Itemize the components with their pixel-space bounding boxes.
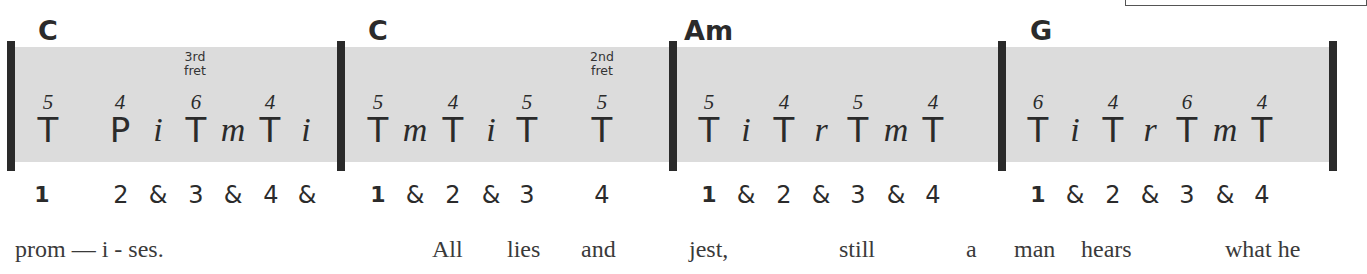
string-number: 5 [358, 92, 398, 112]
tab-note: 6T [176, 92, 216, 148]
tab-note: 4T [250, 92, 290, 148]
beat-count: & [1132, 180, 1168, 210]
bar-line [7, 41, 15, 171]
lyric-word: prom — i - ses. [15, 234, 164, 264]
finger-symbol: m [213, 112, 253, 148]
tab-note: 4T [433, 92, 473, 148]
string-number: 4 [1242, 92, 1282, 112]
finger-symbol: P [100, 112, 140, 148]
bar-line [669, 41, 677, 171]
finger-symbol: i [726, 112, 766, 148]
finger-symbol: T [913, 112, 953, 148]
tab-note: i [138, 92, 178, 148]
string-number [876, 92, 916, 112]
finger-symbol: T [250, 112, 290, 148]
tab-note: 5T [689, 92, 729, 148]
beat-count: 1 [1020, 180, 1056, 210]
string-number [138, 92, 178, 112]
string-number [213, 92, 253, 112]
beat-count: 1 [360, 180, 396, 210]
beat-count: & [803, 180, 839, 210]
fret-annotation: 2nd fret [584, 50, 620, 78]
beat-count: 4 [1244, 180, 1280, 210]
finger-symbol: T [1242, 112, 1282, 148]
string-number [395, 92, 435, 112]
bar-line [1329, 41, 1337, 171]
string-number: 5 [28, 92, 68, 112]
finger-symbol: T [1093, 112, 1133, 148]
lyric-word: still [839, 234, 875, 264]
beat-count: 3 [509, 180, 545, 210]
beat-count: 3 [840, 180, 876, 210]
finger-symbol: i [286, 112, 326, 148]
finger-symbol: i [471, 112, 511, 148]
tab-note: i [286, 92, 326, 148]
finger-symbol: m [395, 112, 435, 148]
finger-symbol: T [176, 112, 216, 148]
lyric-word: lies [507, 234, 540, 264]
beat-count: 2 [103, 180, 139, 210]
finger-symbol: T [1167, 112, 1207, 148]
string-number: 4 [913, 92, 953, 112]
tab-note: 5T [838, 92, 878, 148]
string-number: 4 [433, 92, 473, 112]
tab-note: 5T [358, 92, 398, 148]
chord-label: C [368, 16, 388, 46]
string-number: 5 [507, 92, 547, 112]
beat-count: & [1207, 180, 1243, 210]
finger-symbol: m [876, 112, 916, 148]
string-number [726, 92, 766, 112]
string-number: 6 [1018, 92, 1058, 112]
beat-count: 1 [24, 180, 60, 210]
beat-count: 1 [691, 180, 727, 210]
string-number: 4 [764, 92, 804, 112]
bar-line [998, 41, 1006, 171]
beat-count: 4 [253, 180, 289, 210]
tab-note: 5T [582, 92, 622, 148]
beat-count: & [878, 180, 914, 210]
finger-symbol: T [358, 112, 398, 148]
lyric-word: a [966, 234, 977, 264]
beat-count: & [140, 180, 176, 210]
chord-label: C [38, 16, 58, 46]
beat-count: 4 [584, 180, 620, 210]
lyric-word: and [581, 234, 616, 264]
tab-note: 4P [100, 92, 140, 148]
chord-label: G [1030, 16, 1052, 46]
beat-count: & [289, 180, 325, 210]
tab-note: m [876, 92, 916, 148]
finger-symbol: r [801, 112, 841, 148]
tab-note: 6T [1018, 92, 1058, 148]
string-number [471, 92, 511, 112]
finger-symbol: T [28, 112, 68, 148]
tab-note: i [726, 92, 766, 148]
beat-count: & [473, 180, 509, 210]
lyric-word: jest, [689, 234, 728, 264]
string-number: 4 [1093, 92, 1133, 112]
finger-symbol: T [689, 112, 729, 148]
tab-note: m [213, 92, 253, 148]
beat-count: 2 [435, 180, 471, 210]
tab-note: 4T [1093, 92, 1133, 148]
string-number [286, 92, 326, 112]
string-number [1055, 92, 1095, 112]
string-number: 4 [100, 92, 140, 112]
finger-symbol: T [1018, 112, 1058, 148]
fret-annotation: 3rd fret [177, 50, 213, 78]
beat-count: & [397, 180, 433, 210]
bar-line [337, 41, 345, 171]
tab-note: i [1055, 92, 1095, 148]
beat-count: & [728, 180, 764, 210]
finger-symbol: T [433, 112, 473, 148]
string-number: 5 [582, 92, 622, 112]
tab-note: 4T [913, 92, 953, 148]
finger-symbol: r [1130, 112, 1170, 148]
string-number: 6 [176, 92, 216, 112]
finger-symbol: m [1205, 112, 1245, 148]
string-number: 6 [1167, 92, 1207, 112]
top-right-box [1125, 0, 1367, 6]
string-number: 4 [250, 92, 290, 112]
finger-symbol: i [1055, 112, 1095, 148]
string-number [1205, 92, 1245, 112]
finger-symbol: T [507, 112, 547, 148]
